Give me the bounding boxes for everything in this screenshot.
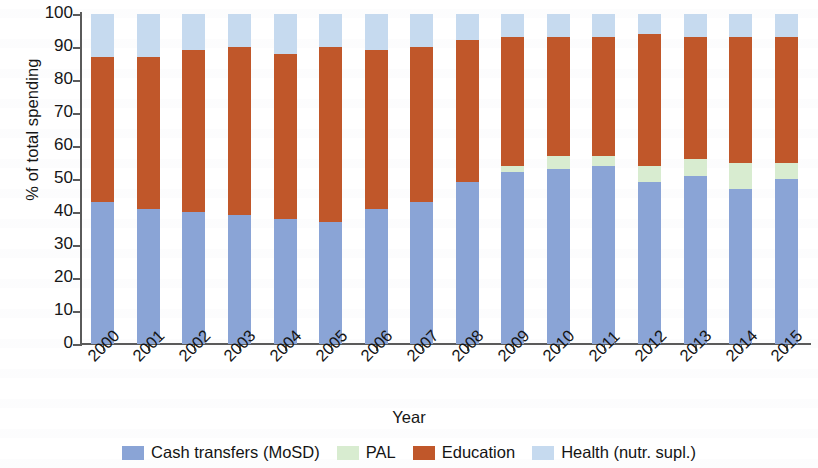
legend-label: PAL — [366, 443, 396, 462]
bar-segment-cash-transfers[interactable] — [182, 212, 205, 344]
y-axis-tick-label: 30 — [54, 234, 73, 254]
bar-segment-education[interactable] — [410, 47, 433, 202]
bar-segment-health[interactable] — [592, 14, 615, 37]
bar-segment-cash-transfers[interactable] — [684, 176, 707, 344]
bar-segment-education[interactable] — [684, 37, 707, 159]
legend-item-3[interactable]: Health (nutr. supl.) — [532, 443, 696, 462]
bar-segment-health[interactable] — [547, 14, 570, 37]
bar-segment-health[interactable] — [319, 14, 342, 47]
bar-segment-cash-transfers[interactable] — [456, 182, 479, 344]
bar-segment-cash-transfers[interactable] — [228, 215, 251, 344]
y-axis-tick-mark — [73, 212, 80, 214]
bar-2008[interactable] — [456, 14, 479, 344]
bar-segment-pal[interactable] — [547, 156, 570, 169]
bar-2014[interactable] — [729, 14, 752, 344]
bar-2000[interactable] — [91, 14, 114, 344]
legend-swatch-pal — [337, 446, 359, 460]
bar-segment-pal[interactable] — [775, 163, 798, 180]
x-axis-title: Year — [0, 408, 818, 427]
y-axis-tick-label: 70 — [54, 102, 73, 122]
bar-segment-health[interactable] — [684, 14, 707, 37]
bar-2013[interactable] — [684, 14, 707, 344]
y-axis-line — [80, 12, 82, 346]
bar-segment-cash-transfers[interactable] — [410, 202, 433, 344]
bar-segment-cash-transfers[interactable] — [274, 219, 297, 344]
bar-segment-education[interactable] — [182, 50, 205, 212]
bar-2003[interactable] — [228, 14, 251, 344]
bar-2005[interactable] — [319, 14, 342, 344]
bar-segment-education[interactable] — [228, 47, 251, 215]
bar-segment-cash-transfers[interactable] — [775, 179, 798, 344]
y-axis-tick-label: 90 — [54, 36, 73, 56]
y-axis-tick-mark — [73, 311, 80, 313]
bar-segment-education[interactable] — [592, 37, 615, 156]
plot-area: 0102030405060708090100 — [80, 14, 809, 344]
bar-segment-education[interactable] — [775, 37, 798, 162]
bar-segment-cash-transfers[interactable] — [501, 172, 524, 344]
bar-segment-cash-transfers[interactable] — [137, 209, 160, 344]
y-axis-tick-label: 60 — [54, 135, 73, 155]
bar-segment-pal[interactable] — [729, 163, 752, 189]
y-axis-tick-mark — [73, 47, 80, 49]
bar-2015[interactable] — [775, 14, 798, 344]
bar-segment-health[interactable] — [365, 14, 388, 50]
bar-segment-pal[interactable] — [638, 166, 661, 183]
y-axis-tick-label: 80 — [54, 69, 73, 89]
bar-segment-education[interactable] — [456, 40, 479, 182]
bar-segment-health[interactable] — [228, 14, 251, 47]
bar-segment-cash-transfers[interactable] — [365, 209, 388, 344]
bar-segment-health[interactable] — [410, 14, 433, 47]
chart-legend: Cash transfers (MoSD)PALEducationHealth … — [0, 443, 818, 462]
legend-item-2[interactable]: Education — [413, 443, 515, 462]
y-axis-tick-label: 40 — [54, 201, 73, 221]
stacked-bar-chart: % of total spending 01020304050607080901… — [0, 0, 818, 468]
bar-2004[interactable] — [274, 14, 297, 344]
bar-segment-education[interactable] — [91, 57, 114, 202]
bar-2010[interactable] — [547, 14, 570, 344]
bar-segment-cash-transfers[interactable] — [547, 169, 570, 344]
bar-segment-health[interactable] — [501, 14, 524, 37]
bar-segment-education[interactable] — [547, 37, 570, 156]
bar-segment-health[interactable] — [456, 14, 479, 40]
bar-segment-health[interactable] — [137, 14, 160, 57]
bar-segment-health[interactable] — [638, 14, 661, 34]
bar-segment-education[interactable] — [137, 57, 160, 209]
y-axis-tick-mark — [73, 179, 80, 181]
bar-segment-health[interactable] — [274, 14, 297, 54]
bar-segment-cash-transfers[interactable] — [319, 222, 342, 344]
legend-swatch-cash-transfers — [122, 446, 144, 460]
bar-segment-health[interactable] — [729, 14, 752, 37]
bar-segment-education[interactable] — [729, 37, 752, 162]
legend-label: Cash transfers (MoSD) — [151, 443, 320, 462]
bar-2002[interactable] — [182, 14, 205, 344]
bar-segment-education[interactable] — [365, 50, 388, 208]
bar-2012[interactable] — [638, 14, 661, 344]
bar-segment-cash-transfers[interactable] — [91, 202, 114, 344]
legend-item-1[interactable]: PAL — [337, 443, 396, 462]
bar-segment-cash-transfers[interactable] — [729, 189, 752, 344]
bar-2007[interactable] — [410, 14, 433, 344]
legend-item-0[interactable]: Cash transfers (MoSD) — [122, 443, 320, 462]
y-axis-tick-mark — [73, 146, 80, 148]
bar-segment-pal[interactable] — [592, 156, 615, 166]
bar-2011[interactable] — [592, 14, 615, 344]
bar-segment-cash-transfers[interactable] — [638, 182, 661, 344]
bar-segment-education[interactable] — [319, 47, 342, 222]
bar-segment-education[interactable] — [501, 37, 524, 166]
bar-segment-pal[interactable] — [501, 166, 524, 173]
bar-segment-health[interactable] — [775, 14, 798, 37]
bar-segment-education[interactable] — [274, 54, 297, 219]
bar-2001[interactable] — [137, 14, 160, 344]
bar-segment-pal[interactable] — [684, 159, 707, 176]
bar-segment-education[interactable] — [638, 34, 661, 166]
bar-segment-cash-transfers[interactable] — [592, 166, 615, 344]
y-axis-tick-label: 0 — [64, 333, 73, 353]
y-axis-tick-mark — [73, 344, 80, 346]
y-axis-tick-mark — [73, 278, 80, 280]
bar-segment-health[interactable] — [182, 14, 205, 50]
bar-2006[interactable] — [365, 14, 388, 344]
y-axis-tick-mark — [73, 14, 80, 16]
y-axis-tick-mark — [73, 80, 80, 82]
bar-2009[interactable] — [501, 14, 524, 344]
bar-segment-health[interactable] — [91, 14, 114, 57]
